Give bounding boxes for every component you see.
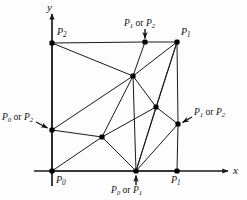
vertex-dot-p0orp1_bottom (133, 168, 138, 173)
vertex-dot-p1orp2_right (175, 121, 180, 126)
vertex-dot-p0orp2_left (49, 127, 54, 132)
callout-label-p1-or-p2-right: P1 or P2 (194, 108, 225, 119)
callout-label-p0-or-p1-bottom: P0 or P1 (111, 186, 142, 197)
vertex-dot-interior_right (153, 104, 158, 109)
vertex-label-p2: P2 (57, 27, 67, 39)
triangulation-edge (133, 76, 156, 107)
triangulation-edge (52, 43, 133, 76)
triangulation-edge (133, 42, 177, 76)
callout-label-p1-or-p2-top: P1 or P2 (124, 19, 155, 30)
triangulation-edge (52, 42, 145, 43)
callout-arrow-left (36, 122, 48, 128)
y-axis-label: y (47, 2, 52, 13)
edge-layer (52, 42, 178, 171)
callout-label-p0-or-p2-left: P0 or P2 (2, 113, 33, 124)
axis-layer (34, 14, 228, 186)
triangulation-edge (52, 137, 102, 171)
vertex-dot-p1orp2_top (142, 39, 147, 44)
triangulation-edge (102, 137, 136, 171)
vertex-dot-layer (49, 39, 180, 173)
triangulation-edge (136, 124, 178, 171)
vertex-label-p1-bottomright: P1 (171, 175, 181, 187)
triangulation-svg (0, 0, 247, 200)
vertex-dot-p1_bottomright (174, 168, 179, 173)
triangulation-edge (133, 76, 136, 171)
callout-arrow-layer (36, 29, 192, 185)
vertex-label-p1-topright: P1 (181, 27, 191, 39)
triangulation-edge (52, 130, 102, 137)
triangulation-edge (156, 107, 178, 124)
callout-arrow-right (183, 117, 193, 123)
vertex-dot-interior_upper (130, 73, 135, 78)
vertex-dot-p0_origin (49, 168, 54, 173)
x-axis-label: x (233, 165, 238, 176)
vertex-dot-interior_lower (99, 134, 104, 139)
figure-canvas: y x P2 P1 P0 P1 P1 or P2 P0 or P2 P1 or … (0, 0, 247, 200)
vertex-label-p0: P0 (56, 175, 66, 187)
triangulation-edge (52, 76, 133, 130)
vertex-dot-p2_topleft (49, 40, 54, 45)
triangulation-edge (177, 124, 178, 171)
triangulation-edge (177, 42, 178, 124)
vertex-dot-p1_topright (174, 39, 179, 44)
